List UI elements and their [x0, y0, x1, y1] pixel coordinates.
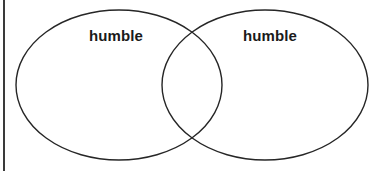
venn-diagram-canvas: humble humble [0, 0, 386, 171]
venn-label-right: humble [230, 28, 310, 43]
venn-shapes-group [0, 0, 386, 171]
venn-label-left: humble [76, 28, 156, 43]
